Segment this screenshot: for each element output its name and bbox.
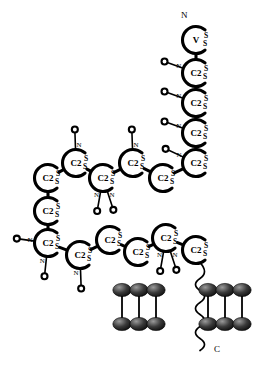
residue-node: C2SS: [62, 150, 88, 177]
residue-label: C2: [43, 238, 54, 248]
residue-label: C2: [98, 173, 109, 183]
lipid-bilayer-left-cluster: [113, 283, 165, 330]
amide-nitrogen-label: N: [94, 191, 99, 199]
lipid-head-group: [216, 317, 234, 330]
hydroxyl-group-icon: [14, 236, 20, 242]
residue-label: V: [193, 35, 200, 45]
residue-label: C2: [191, 68, 202, 78]
residue-label: C2: [43, 173, 54, 183]
lipid-head-group: [147, 283, 165, 296]
amide-nitrogen-label: N: [173, 251, 178, 259]
amide-nitrogen-label: N: [176, 92, 181, 100]
residue-label: C2: [71, 158, 82, 168]
sulfate-mark: S: [55, 242, 59, 251]
lipid-bilayer: [113, 283, 251, 330]
amide-nitrogen-label: N: [176, 62, 181, 70]
lipid-head-group: [130, 317, 148, 330]
residue-layer: VSSC2SSC2SSC2SSC2SSC2SSC2SSC2SSC2SSC2SSC…: [34, 27, 208, 269]
lipid-head-group: [233, 283, 251, 296]
hydroxyl-group-icon: [72, 127, 78, 133]
residue-label: C2: [191, 128, 202, 138]
residue-node: C2SS: [96, 227, 122, 254]
amide-nitrogen-label: N: [134, 141, 139, 149]
sulfate-mark: S: [140, 162, 144, 171]
lipid-head-group: [113, 317, 131, 330]
residue-node: C2SS: [34, 230, 60, 257]
hydroxyl-group-icon: [162, 59, 168, 65]
sulfate-mark: S: [203, 162, 207, 171]
sulfate-mark: S: [55, 177, 59, 186]
amide-nitrogen-label: N: [110, 191, 115, 199]
diagram-canvas: NNNNNNNNNNNNN VSSC2SSC2SSC2SSC2SSC2SSC2S…: [0, 0, 269, 367]
amide-nitrogen-label: N: [77, 141, 82, 149]
residue-label: C2: [128, 158, 139, 168]
hydroxyl-group-icon: [129, 127, 135, 133]
residue-label: C2: [158, 173, 169, 183]
sulfate-mark: S: [145, 251, 149, 260]
sulfate-mark: S: [87, 254, 91, 263]
c-terminal-tail: [196, 263, 205, 351]
sulfate-mark: S: [203, 39, 207, 48]
lipid-head-group: [199, 283, 217, 296]
residue-node: C2SS: [34, 198, 60, 225]
residue-node: C2SS: [182, 90, 208, 117]
sulfate-mark: S: [173, 237, 177, 246]
residue-node: C2SS: [149, 165, 175, 192]
hydroxyl-group-icon: [173, 267, 179, 273]
amide-nitrogen-label: N: [40, 257, 45, 265]
sulfate-mark: S: [203, 102, 207, 111]
residue-node: VSS: [182, 27, 208, 54]
residue-node: C2SS: [119, 150, 145, 177]
amide-nitrogen-label: N: [28, 236, 33, 244]
amide-nitrogen-label: N: [73, 269, 78, 277]
n-terminus-label: N: [181, 10, 188, 20]
residue-node: C2SS: [34, 165, 60, 192]
sulfate-mark: S: [110, 177, 114, 186]
sulfate-mark: S: [170, 177, 174, 186]
lipid-bilayer-right-cluster: [199, 283, 251, 330]
lipid-head-group: [113, 283, 131, 296]
c-terminus-label: C: [214, 344, 220, 354]
residue-label: C2: [43, 206, 54, 216]
sulfate-mark: S: [83, 162, 87, 171]
residue-label: C2: [75, 250, 86, 260]
residue-label: C2: [191, 98, 202, 108]
residue-node: C2SS: [66, 242, 92, 269]
lipid-head-group: [216, 283, 234, 296]
residue-label: C2: [133, 247, 144, 257]
residue-node: C2SS: [182, 150, 208, 177]
amide-nitrogen-label: N: [176, 122, 181, 130]
residue-label: C2: [105, 235, 116, 245]
hydroxyl-group-icon: [41, 273, 47, 279]
lipid-head-group: [147, 317, 165, 330]
residue-label: C2: [191, 245, 202, 255]
lipid-head-group: [199, 317, 217, 330]
sulfate-mark: S: [55, 210, 59, 219]
residue-node: C2SS: [89, 165, 115, 192]
residue-node: C2SS: [124, 239, 150, 266]
amide-nitrogen-label: N: [157, 251, 162, 259]
sulfate-mark: S: [203, 132, 207, 141]
hydroxyl-group-icon: [157, 268, 163, 274]
molecular-structure-svg: NNNNNNNNNNNNN VSSC2SSC2SSC2SSC2SSC2SSC2S…: [0, 0, 269, 367]
hydroxyl-group-icon: [162, 89, 168, 95]
lipid-head-group: [233, 317, 251, 330]
hydroxyl-group-icon: [94, 208, 100, 214]
residue-node: C2SS: [182, 59, 208, 86]
residue-node: C2SS: [152, 225, 178, 252]
lipid-head-group: [130, 283, 148, 296]
amide-nitrogen-label: N: [177, 151, 182, 159]
sulfate-mark: S: [203, 72, 207, 81]
hydroxyl-group-icon: [110, 207, 116, 213]
residue-label: C2: [191, 158, 202, 168]
hydroxyl-group-icon: [78, 285, 84, 291]
residue-node: C2SS: [182, 237, 208, 264]
sulfate-mark: S: [117, 239, 121, 248]
sulfate-mark: S: [203, 249, 207, 258]
residue-label: C2: [161, 233, 172, 243]
hydroxyl-group-icon: [163, 146, 169, 152]
residue-node: C2SS: [182, 120, 208, 147]
hydroxyl-group-icon: [162, 119, 168, 125]
